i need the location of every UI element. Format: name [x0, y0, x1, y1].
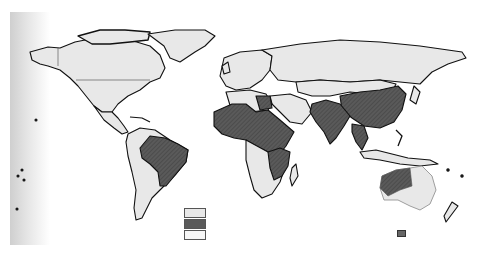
japan: [410, 86, 420, 104]
southeast-asia: [352, 124, 368, 150]
world-map: [0, 0, 482, 253]
legend-swatch-dark: [184, 219, 206, 229]
map-legend: [184, 208, 206, 241]
arctic-islands: [78, 30, 150, 44]
madagascar: [290, 164, 298, 186]
new-zealand: [444, 202, 458, 222]
russia: [262, 40, 466, 84]
legend-swatch-white: [184, 230, 206, 240]
indonesia: [360, 150, 438, 166]
legend-swatch-light: [184, 208, 206, 218]
north-america: [30, 36, 165, 112]
corner-square-mark: [397, 230, 406, 237]
